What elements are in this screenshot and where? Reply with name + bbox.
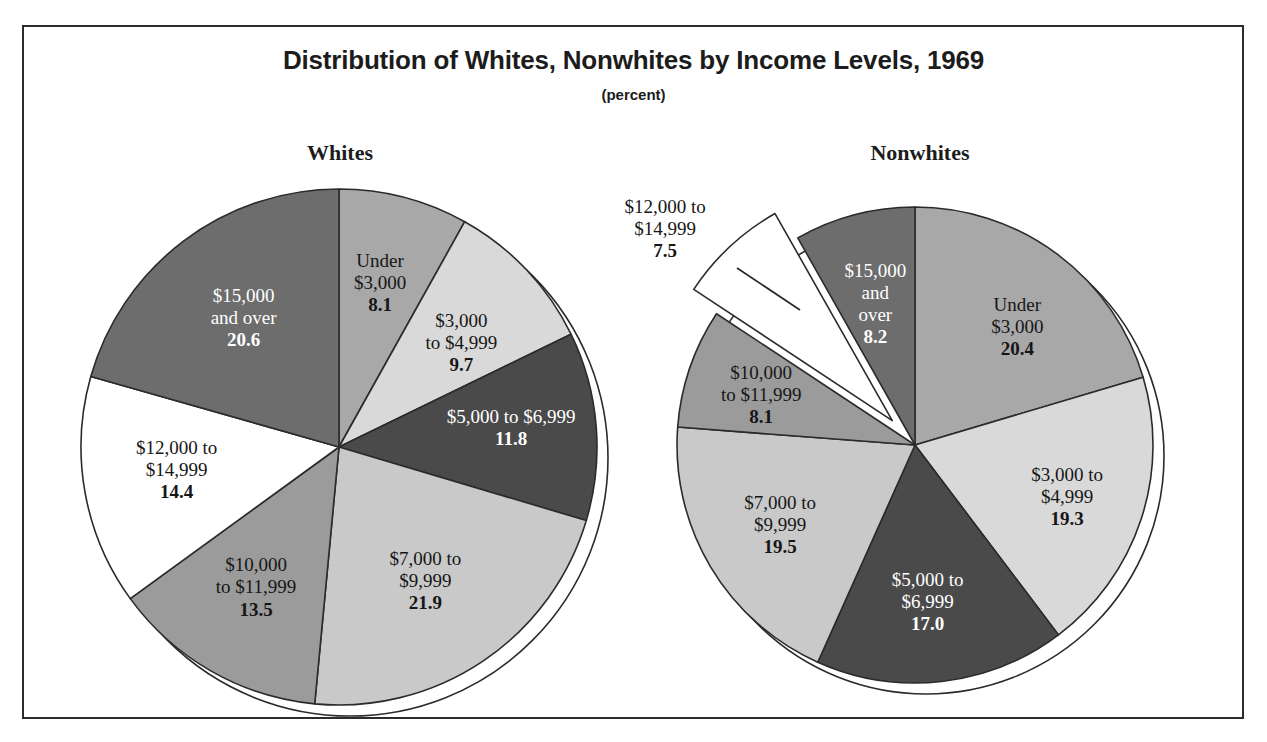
pie-slice-label-line: $12,000 to <box>136 437 217 459</box>
pie-slice-label-line: $12,000 to <box>625 196 706 218</box>
pie-slice-label-line: to $11,999 <box>216 576 297 598</box>
pie-slice-label-line: $7,000 to <box>744 492 816 514</box>
pie-slice-label-line: $9,999 <box>744 514 816 536</box>
pie-slice-value: 8.1 <box>354 294 406 316</box>
pie-slice-value: 14.4 <box>136 481 217 503</box>
chart-page: Distribution of Whites, Nonwhites by Inc… <box>0 0 1267 742</box>
pie-slice-label: $10,000to $11,9998.1 <box>721 362 802 428</box>
pie-slice-value: 8.2 <box>844 326 906 348</box>
pie-slice-label: $3,000to $4,9999.7 <box>426 310 498 376</box>
pie-slice-label-line: and over <box>211 307 277 329</box>
pie-slice-value: 13.5 <box>216 599 297 621</box>
pie-slice-value: 9.7 <box>426 354 498 376</box>
pie-slice-label: $7,000 to$9,99919.5 <box>744 492 816 558</box>
chart-title: Distribution of Whites, Nonwhites by Inc… <box>0 45 1267 76</box>
pie-slice-label-line: $15,000 <box>211 285 277 307</box>
pie-slice-label-line: and <box>844 282 906 304</box>
pie-slice-label-line: $3,000 <box>354 272 406 294</box>
pie-slice-label-line: to $11,999 <box>721 384 802 406</box>
pie-slice-label-line: Under <box>991 294 1043 316</box>
pie-slice-label-line: $3,000 <box>426 310 498 332</box>
pie-slice-value: 20.6 <box>211 329 277 351</box>
pie-slice-value: 7.5 <box>625 240 706 262</box>
pie-slice-label: $7,000 to$9,99921.9 <box>390 548 462 614</box>
pie-slice-label-line: $15,000 <box>844 260 906 282</box>
chart-frame <box>22 25 1244 719</box>
pie-slice-label: $15,000andover8.2 <box>844 260 906 348</box>
pie-slice-value: 17.0 <box>892 613 964 635</box>
pie-slice-label: $5,000 to $6,99911.8 <box>447 406 576 450</box>
pie-slice-label-line: $4,999 <box>1031 486 1103 508</box>
pie-heading-whites: Whites <box>190 140 490 166</box>
pie-slice-value: 19.5 <box>744 536 816 558</box>
pie-slice-value: 19.3 <box>1031 508 1103 530</box>
pie-slice-label: Under$3,0008.1 <box>354 250 406 316</box>
pie-slice-label: $12,000 to$14,9997.5 <box>625 196 706 262</box>
pie-slice-label-line: Under <box>354 250 406 272</box>
pie-slice-label-line: $7,000 to <box>390 548 462 570</box>
pie-slice-label-line: over <box>844 304 906 326</box>
pie-slice-label-line: $3,000 to <box>1031 464 1103 486</box>
pie-slice-label-line: $14,999 <box>136 459 217 481</box>
pie-slice-label: $5,000 to$6,99917.0 <box>892 569 964 635</box>
pie-slice-label-line: $14,999 <box>625 218 706 240</box>
pie-slice-label: $3,000 to$4,99919.3 <box>1031 464 1103 530</box>
pie-slice-value: 21.9 <box>390 592 462 614</box>
chart-subtitle: (percent) <box>0 86 1267 103</box>
pie-slice-label: $10,000to $11,99913.5 <box>216 554 297 620</box>
pie-slice-label-line: to $4,999 <box>426 332 498 354</box>
pie-slice-label-line: $5,000 to $6,999 <box>447 406 576 428</box>
pie-slice-label: Under$3,00020.4 <box>991 294 1043 360</box>
pie-slice-label-line: $3,000 <box>991 316 1043 338</box>
pie-slice-label-line: $10,000 <box>216 554 297 576</box>
pie-slice-label: $12,000 to$14,99914.4 <box>136 437 217 503</box>
pie-heading-nonwhites: Nonwhites <box>770 140 1070 166</box>
pie-slice-label-line: $5,000 to <box>892 569 964 591</box>
pie-slice-label-line: $9,999 <box>390 570 462 592</box>
pie-slice-value: 8.1 <box>721 406 802 428</box>
pie-slice-value: 20.4 <box>991 338 1043 360</box>
pie-slice-label-line: $10,000 <box>721 362 802 384</box>
pie-slice-value: 11.8 <box>447 428 576 450</box>
pie-slice-label-line: $6,999 <box>892 591 964 613</box>
pie-slice-label: $15,000and over20.6 <box>211 285 277 351</box>
